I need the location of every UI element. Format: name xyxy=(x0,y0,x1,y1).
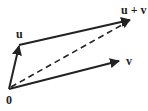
label-u: u xyxy=(16,27,23,41)
vector-u-translated-arrow xyxy=(19,20,130,45)
vector-addition-diagram: 0 u v u + v xyxy=(0,0,148,111)
label-origin: 0 xyxy=(6,93,12,107)
vector-u-arrow xyxy=(9,46,19,89)
vector-v-arrow xyxy=(9,61,119,89)
diagram-canvas: 0 u v u + v xyxy=(0,0,148,111)
label-u-plus-v: u + v xyxy=(121,3,147,17)
vector-sum-dashed-arrow xyxy=(11,21,129,87)
label-v: v xyxy=(126,54,132,68)
